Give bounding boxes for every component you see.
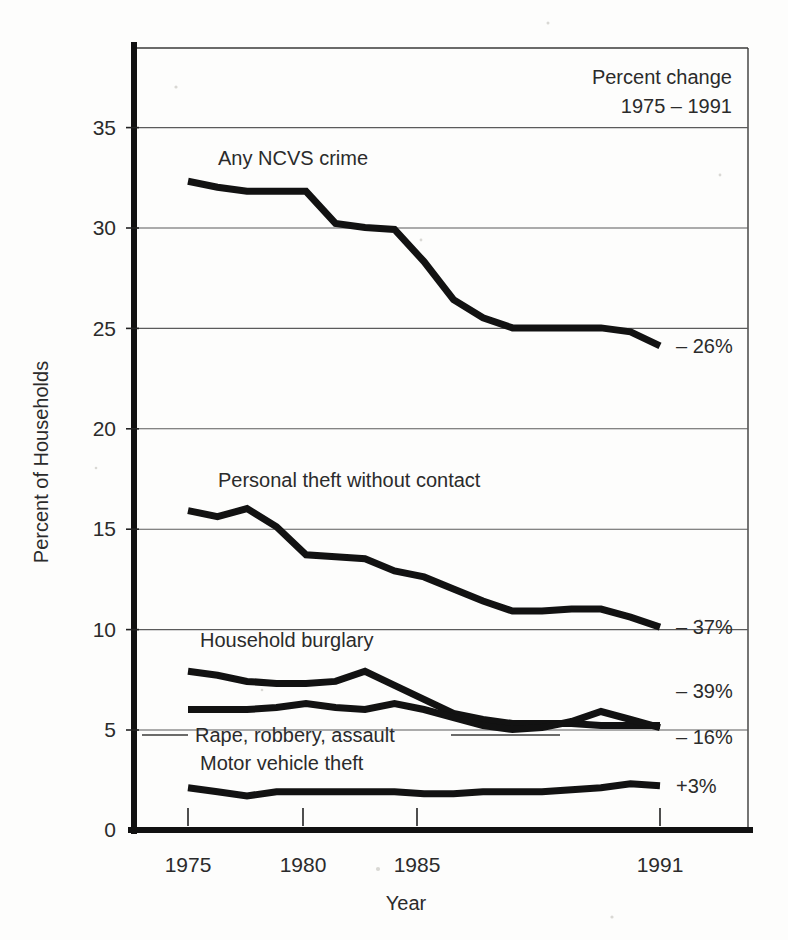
x-tick-1985: 1985 [394, 853, 441, 876]
percent-change-note-line2: 1975 – 1991 [621, 95, 732, 117]
line-chart: 0 5 10 15 20 25 30 35 Percent of Househo… [0, 0, 788, 940]
x-axis-title: Year [386, 892, 427, 914]
x-tick-1980: 1980 [280, 853, 327, 876]
y-tick-25: 25 [93, 317, 116, 340]
y-tick-10: 10 [93, 618, 116, 641]
x-tick-1991: 1991 [637, 853, 684, 876]
change-label-ncvs: – 26% [676, 335, 733, 357]
change-label-violent: – 16% [676, 726, 733, 748]
y-tick-20: 20 [93, 417, 116, 440]
change-label-personal-theft: – 37% [676, 616, 733, 638]
y-tick-5: 5 [104, 718, 116, 741]
series-label-mvt: Motor vehicle theft [200, 752, 364, 774]
series-label-burglary: Household burglary [200, 629, 373, 651]
series-label-ncvs: Any NCVS crime [218, 147, 368, 169]
percent-change-note-line1: Percent change [592, 66, 732, 88]
y-tick-0: 0 [104, 818, 116, 841]
y-tick-35: 35 [93, 116, 116, 139]
x-tick-1975: 1975 [165, 853, 212, 876]
change-label-burglary: – 39% [676, 680, 733, 702]
y-axis-title: Percent of Households [30, 361, 52, 563]
series-label-violent: Rape, robbery, assault [195, 724, 395, 746]
y-tick-15: 15 [93, 517, 116, 540]
y-tick-30: 30 [93, 216, 116, 239]
series-label-personal-theft: Personal theft without contact [218, 469, 481, 491]
chart-container: 0 5 10 15 20 25 30 35 Percent of Househo… [0, 0, 788, 940]
change-label-mvt: +3% [676, 775, 717, 797]
